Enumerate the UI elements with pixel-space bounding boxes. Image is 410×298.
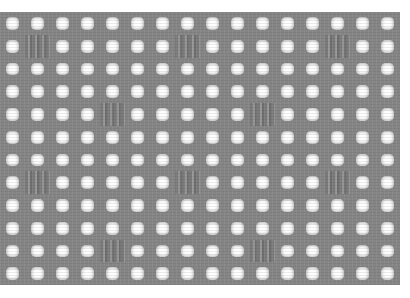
open-mesh-cell xyxy=(300,12,325,35)
open-mesh-cell xyxy=(325,58,350,81)
open-mesh-cell xyxy=(150,80,175,103)
mesh-hole xyxy=(256,40,269,53)
mesh-hole xyxy=(206,17,219,30)
open-mesh-cell xyxy=(325,262,350,285)
open-mesh-cell xyxy=(75,126,100,149)
open-mesh-cell xyxy=(350,262,375,285)
open-mesh-cell xyxy=(200,103,225,126)
open-mesh-cell xyxy=(175,217,200,240)
open-mesh-cell xyxy=(325,12,350,35)
mesh-hole xyxy=(81,154,94,167)
mesh-hole xyxy=(381,154,394,167)
open-mesh-cell xyxy=(225,240,250,263)
mesh-hole xyxy=(231,131,244,144)
open-mesh-cell xyxy=(250,58,275,81)
open-mesh-cell xyxy=(75,12,100,35)
filled-block xyxy=(325,171,350,194)
open-mesh-cell xyxy=(25,58,50,81)
open-mesh-cell xyxy=(0,217,25,240)
open-mesh-cell xyxy=(350,103,375,126)
mesh-hole xyxy=(156,245,169,258)
mesh-hole xyxy=(306,154,319,167)
open-mesh-cell xyxy=(300,80,325,103)
mesh-hole xyxy=(131,108,144,121)
mesh-hole xyxy=(81,245,94,258)
open-mesh-cell xyxy=(0,12,25,35)
mesh-hole xyxy=(31,85,44,98)
mesh-hole xyxy=(181,63,194,76)
open-mesh-cell xyxy=(300,262,325,285)
mesh-hole xyxy=(281,176,294,189)
open-mesh-cell xyxy=(25,103,50,126)
open-mesh-cell xyxy=(250,149,275,172)
mesh-hole xyxy=(106,176,119,189)
open-mesh-cell xyxy=(375,126,400,149)
mesh-hole xyxy=(356,63,369,76)
open-mesh-cell xyxy=(150,262,175,285)
mesh-hole xyxy=(206,199,219,212)
mesh-hole xyxy=(281,17,294,30)
open-mesh-cell xyxy=(50,35,75,58)
open-mesh-cell xyxy=(125,262,150,285)
open-mesh-cell xyxy=(225,58,250,81)
mesh-hole xyxy=(6,85,19,98)
mesh-hole xyxy=(306,17,319,30)
open-mesh-cell xyxy=(275,58,300,81)
open-mesh-cell xyxy=(100,149,125,172)
filled-block xyxy=(250,240,275,263)
mesh-hole xyxy=(231,199,244,212)
open-mesh-cell xyxy=(350,217,375,240)
mesh-hole xyxy=(331,63,344,76)
open-mesh-cell xyxy=(125,149,150,172)
mesh-hole xyxy=(156,199,169,212)
mesh-hole xyxy=(381,199,394,212)
mesh-hole xyxy=(31,154,44,167)
filled-block xyxy=(175,35,200,58)
mesh-hole xyxy=(231,154,244,167)
mesh-hole xyxy=(231,85,244,98)
mesh-hole xyxy=(106,17,119,30)
open-mesh-cell xyxy=(25,80,50,103)
open-mesh-cell xyxy=(75,194,100,217)
open-mesh-cell xyxy=(375,171,400,194)
mesh-hole xyxy=(56,154,69,167)
mesh-hole xyxy=(131,63,144,76)
mesh-hole xyxy=(281,63,294,76)
mesh-hole xyxy=(131,222,144,235)
mesh-hole xyxy=(381,131,394,144)
mesh-hole xyxy=(81,199,94,212)
mesh-hole xyxy=(6,131,19,144)
open-mesh-cell xyxy=(200,58,225,81)
mesh-hole xyxy=(256,85,269,98)
open-mesh-cell xyxy=(75,217,100,240)
mesh-hole xyxy=(131,85,144,98)
mesh-hole xyxy=(381,176,394,189)
open-mesh-cell xyxy=(125,103,150,126)
open-mesh-cell xyxy=(175,12,200,35)
mesh-hole xyxy=(6,17,19,30)
open-mesh-cell xyxy=(175,194,200,217)
open-mesh-cell xyxy=(325,126,350,149)
mesh-hole xyxy=(331,154,344,167)
mesh-hole xyxy=(256,17,269,30)
open-mesh-cell xyxy=(325,80,350,103)
open-mesh-cell xyxy=(200,80,225,103)
open-mesh-cell xyxy=(325,149,350,172)
open-mesh-cell xyxy=(225,171,250,194)
mesh-hole xyxy=(106,267,119,280)
open-mesh-cell xyxy=(100,12,125,35)
mesh-hole xyxy=(331,108,344,121)
filled-block xyxy=(325,35,350,58)
mesh-hole xyxy=(306,222,319,235)
open-mesh-cell xyxy=(300,35,325,58)
mesh-hole xyxy=(56,40,69,53)
open-mesh-cell xyxy=(150,149,175,172)
mesh-hole xyxy=(106,131,119,144)
mesh-hole xyxy=(206,176,219,189)
mesh-hole xyxy=(31,131,44,144)
open-mesh-cell xyxy=(250,262,275,285)
open-mesh-cell xyxy=(200,171,225,194)
open-mesh-cell xyxy=(275,12,300,35)
mesh-hole xyxy=(306,199,319,212)
mesh-hole xyxy=(256,199,269,212)
